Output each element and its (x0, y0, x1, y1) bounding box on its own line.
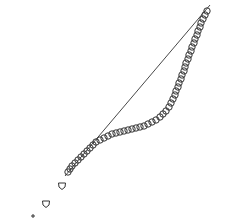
circle-marker-icon (170, 96, 176, 102)
circle-marker-icon (168, 100, 174, 106)
triangle-marker-icon (59, 183, 66, 190)
circle-marker-icon (185, 56, 191, 62)
circle-marker-icon (105, 133, 111, 139)
circle-marker-icon (145, 121, 151, 127)
circle-marker-icon (109, 131, 115, 137)
circle-marker-icon (194, 32, 200, 38)
reference-line (65, 5, 210, 176)
scatter-plot (0, 0, 227, 219)
circle-marker-icon (197, 24, 203, 30)
circle-marker-icon (175, 84, 181, 90)
plus-marker-icon (31, 214, 35, 218)
circle-marker-icon (97, 137, 103, 143)
triangle-marker-icon (43, 201, 50, 208)
circle-marker-icon (188, 48, 194, 54)
series-outlier (31, 214, 35, 218)
circle-marker-icon (191, 40, 197, 46)
circle-marker-icon (172, 92, 178, 98)
circle-marker-icon (149, 119, 155, 125)
circle-marker-icon (101, 135, 107, 141)
circle-marker-icon (181, 68, 187, 74)
circle-marker-icon (200, 16, 206, 22)
circle-marker-icon (202, 12, 208, 18)
circle-marker-icon (178, 76, 184, 82)
series-tail (43, 183, 66, 208)
